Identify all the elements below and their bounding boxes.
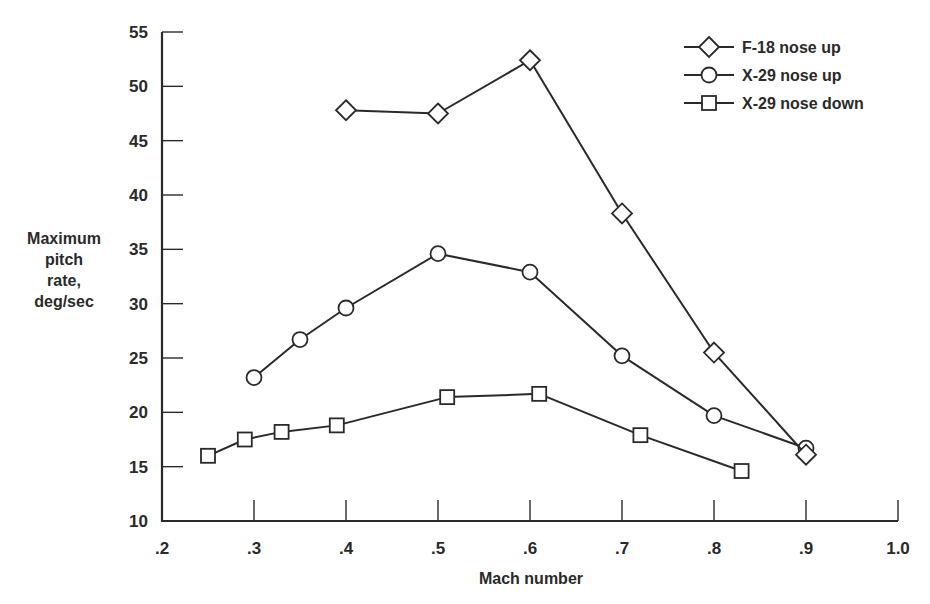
y-tick-label: 35: [129, 240, 148, 259]
y-axis-title-line: deg/sec: [0, 291, 128, 312]
y-tick-label: 15: [129, 458, 148, 477]
x-tick-label: .4: [339, 539, 354, 558]
square-marker: [238, 433, 252, 447]
pitch-rate-chart: 10152025303540455055.2.3.4.5.6.7.8.91.0 …: [0, 0, 930, 604]
circle-marker: [293, 332, 308, 347]
y-tick-label: 25: [129, 349, 148, 368]
x-tick-label: .6: [523, 539, 537, 558]
y-tick-label: 30: [129, 295, 148, 314]
square-marker: [201, 449, 215, 463]
square-marker: [532, 387, 546, 401]
series-layer: [201, 50, 816, 478]
circle-marker: [523, 265, 538, 280]
x-tick-label: .8: [707, 539, 721, 558]
x-axis-title: Mach number: [479, 570, 583, 587]
circle-marker: [702, 68, 717, 83]
y-axis-title: Maximum pitch rate, deg/sec: [0, 228, 128, 312]
legend-item: F-18 nose up: [684, 37, 841, 57]
series-line: [346, 60, 806, 454]
circle-marker: [431, 246, 446, 261]
square-marker: [702, 96, 716, 110]
y-axis-title-line: rate,: [0, 270, 128, 291]
diamond-marker: [612, 203, 632, 223]
circle-marker: [707, 408, 722, 423]
circle-marker: [339, 301, 354, 316]
legend-label: X-29 nose down: [742, 95, 864, 112]
y-axis-title-line: pitch: [0, 249, 128, 270]
diamond-marker: [428, 104, 448, 124]
y-tick-label: 45: [129, 132, 148, 151]
circle-marker: [615, 348, 630, 363]
y-tick-label: 40: [129, 186, 148, 205]
x-tick-label: .2: [155, 539, 169, 558]
square-marker: [330, 418, 344, 432]
y-axis-title-line: Maximum: [0, 228, 128, 249]
square-marker: [633, 428, 647, 442]
circle-marker: [247, 370, 262, 385]
series-f-18-nose-up: [336, 50, 816, 464]
diamond-marker: [336, 100, 356, 120]
y-tick-label: 50: [129, 77, 148, 96]
legend-item: X-29 nose up: [684, 67, 842, 84]
square-marker: [735, 464, 749, 478]
x-tick-label: 1.0: [886, 539, 910, 558]
y-tick-label: 20: [129, 403, 148, 422]
x-tick-label: .5: [431, 539, 445, 558]
x-tick-label: .3: [247, 539, 261, 558]
legend-label: X-29 nose up: [742, 67, 842, 84]
diamond-marker: [520, 50, 540, 70]
y-tick-label: 10: [129, 512, 148, 531]
series-x-29-nose-down: [201, 387, 749, 478]
x-tick-label: .9: [799, 539, 813, 558]
x-tick-label: .7: [615, 539, 629, 558]
square-marker: [275, 425, 289, 439]
legend-label: F-18 nose up: [742, 39, 841, 56]
legend: F-18 nose upX-29 nose upX-29 nose down: [684, 37, 864, 112]
legend-item: X-29 nose down: [684, 95, 864, 112]
diamond-marker: [699, 37, 719, 57]
square-marker: [440, 390, 454, 404]
y-tick-label: 55: [129, 23, 148, 42]
